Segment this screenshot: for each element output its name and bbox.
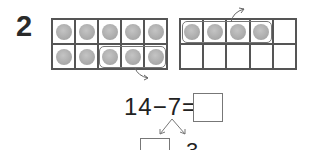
decomposition-right-part: 3 [186, 140, 198, 150]
arrows-overlay [0, 0, 310, 150]
answer-box[interactable] [193, 93, 223, 122]
equation-text: 14−7= [124, 92, 197, 122]
decomposition-left-box[interactable] [140, 138, 170, 150]
